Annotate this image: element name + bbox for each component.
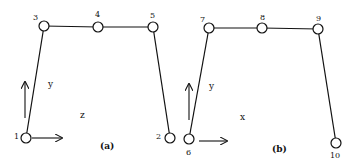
node-4-circle-icon bbox=[93, 22, 103, 32]
node-2-circle-icon bbox=[165, 133, 175, 143]
member-6-7 bbox=[189, 28, 209, 139]
node-label-5: 5 bbox=[150, 11, 155, 20]
node-label-1: 1 bbox=[14, 132, 19, 141]
node-label-7: 7 bbox=[200, 15, 205, 24]
member-1-3 bbox=[26, 26, 44, 138]
panel-b: 678910yx(b) bbox=[184, 13, 341, 160]
axis-label-z: z bbox=[80, 110, 85, 120]
member-3-4 bbox=[44, 26, 98, 27]
node-label-3: 3 bbox=[33, 13, 38, 22]
node-label-8: 8 bbox=[260, 13, 265, 22]
member-5-2 bbox=[153, 27, 170, 138]
frame-diagram: 13452yz(a) 678910yx(b) bbox=[0, 0, 355, 162]
axis-label-x: x bbox=[240, 112, 245, 122]
node-9-circle-icon bbox=[313, 24, 323, 34]
node-7-circle-icon bbox=[204, 23, 214, 33]
node-label-10: 10 bbox=[330, 151, 340, 160]
caption-b: (b) bbox=[272, 144, 287, 154]
node-1-circle-icon bbox=[21, 133, 31, 143]
node-label-9: 9 bbox=[316, 14, 321, 23]
node-3-circle-icon bbox=[39, 21, 49, 31]
node-label-2: 2 bbox=[156, 132, 161, 141]
caption-a: (a) bbox=[100, 141, 114, 151]
node-8-circle-icon bbox=[257, 23, 267, 33]
node-6-circle-icon bbox=[184, 134, 194, 144]
axis-label-y: y bbox=[47, 79, 54, 89]
diagram-svg: 13452yz(a) 678910yx(b) bbox=[0, 0, 355, 162]
axis-label-y: y bbox=[208, 81, 215, 91]
node-5-circle-icon bbox=[148, 22, 158, 32]
node-label-6: 6 bbox=[186, 148, 191, 157]
node-10-circle-icon bbox=[331, 138, 341, 148]
node-label-4: 4 bbox=[95, 10, 100, 19]
member-8-9 bbox=[262, 28, 318, 29]
member-9-10 bbox=[318, 29, 336, 143]
panel-a: 13452yz(a) bbox=[14, 10, 175, 151]
